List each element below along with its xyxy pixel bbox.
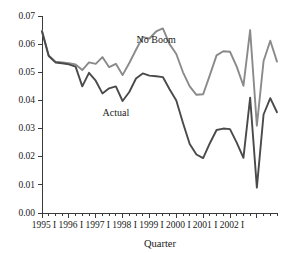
economics-line-chart: 0.000.010.020.030.040.050.060.07 1995 I1… (0, 0, 295, 253)
x-tick-label: 1997 I (85, 220, 110, 230)
x-axis: 1995 I1996 I1997 I1998 I1999 I2000 I2001… (32, 213, 277, 230)
annotation-no-boom: No Boom (137, 34, 176, 45)
x-tick-label: 2002 I (220, 220, 245, 230)
y-axis: 0.000.010.020.030.040.050.060.07 (18, 11, 42, 218)
y-tick-label: 0.05 (18, 67, 35, 77)
x-tick-label: 2000 I (166, 220, 191, 230)
annotation-actual: Actual (103, 107, 130, 118)
x-tick-label: 1999 I (139, 220, 164, 230)
x-tick-label: 2001 I (193, 220, 218, 230)
y-tick-label: 0.01 (18, 180, 35, 190)
y-tick-label: 0.04 (18, 95, 35, 105)
y-tick-label: 0.03 (18, 123, 35, 133)
y-tick-label: 0.00 (18, 208, 35, 218)
chart-canvas: 0.000.010.020.030.040.050.060.07 1995 I1… (0, 0, 295, 253)
series-line-actual (42, 31, 277, 187)
x-tick-label: 1998 I (112, 220, 137, 230)
x-tick-label: 1995 I (32, 220, 57, 230)
series-lines (42, 28, 277, 187)
y-tick-label: 0.06 (18, 39, 35, 49)
x-axis-title: Quarter (144, 238, 177, 249)
y-tick-label: 0.02 (18, 151, 35, 161)
y-tick-label: 0.07 (18, 11, 35, 21)
x-tick-label: 1996 I (59, 220, 84, 230)
